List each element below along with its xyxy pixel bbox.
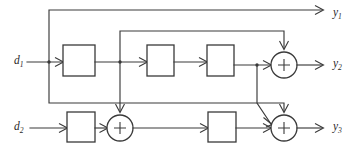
block-3: [207, 45, 234, 76]
wire-mid-to-adder2: [116, 62, 125, 113]
block-2: [147, 45, 174, 76]
adder-1: [271, 52, 297, 78]
wire-d1-input: [27, 58, 64, 67]
wire-mid-to-adder1: [120, 31, 289, 62]
wire-adder2-to-block5: [133, 124, 209, 133]
wire-block1-to-block2: [95, 58, 148, 67]
output-label-y1: y1: [333, 7, 342, 21]
wire-adder1-to-y2: [297, 61, 324, 70]
block-4: [67, 112, 95, 142]
diagram-svg: [0, 0, 360, 153]
block-diagram-canvas: d1 d2 y1 y2 y3: [0, 0, 360, 153]
input-label-d2: d2: [14, 121, 24, 135]
output-label-y3: y3: [333, 121, 342, 135]
wire-block5-to-adder3: [236, 124, 272, 133]
adder-3: [271, 115, 297, 141]
wire-d2-input: [30, 124, 68, 133]
wire-block3-to-adder1: [234, 61, 272, 70]
wire-block2-to-block3: [174, 58, 208, 67]
wire-adder3-to-y3: [297, 124, 324, 133]
input-label-d1: d1: [14, 55, 24, 69]
output-label-y2: y2: [333, 58, 342, 72]
adder-2: [107, 115, 133, 141]
block-5: [208, 112, 236, 142]
wire-block4-to-adder2: [95, 124, 108, 133]
wire-block3tap-diagonal-to-adder3: [257, 65, 272, 127]
block-1: [63, 45, 95, 76]
